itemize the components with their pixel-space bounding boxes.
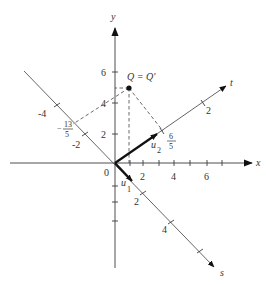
s-tick-label-4: 4: [162, 224, 167, 235]
svg-text:6: 6: [169, 132, 173, 141]
vector-u2: u 2: [115, 134, 161, 163]
s-tick-label-neg4: -4: [38, 108, 46, 119]
x-axis: 2 4 6 x: [10, 157, 261, 182]
rotated-axes-diagram: 2 4 6 x 2 4 6 y 0 2 t 6 5: [0, 0, 266, 285]
x-tick-label-4: 4: [171, 171, 176, 182]
x-tick-label-2: 2: [140, 171, 145, 182]
x-axis-label: x: [255, 157, 261, 168]
point-q: Q = Q′: [126, 71, 156, 91]
t-tick-label-2: 2: [206, 105, 211, 116]
projection-lines: [73, 88, 163, 163]
s-axis: -4 -2 2 4 s − 13 5: [24, 71, 224, 278]
u2-label-base: u: [151, 139, 156, 150]
s-projection-label: − 13 5: [57, 120, 73, 139]
x-tick-label-6: 6: [204, 171, 209, 182]
y-tick-label-4: 4: [101, 98, 106, 109]
t-projection-label: 6 5: [167, 132, 176, 151]
svg-text:13: 13: [64, 120, 72, 129]
y-axis: 2 4 6 y: [101, 11, 118, 268]
svg-text:5: 5: [169, 142, 173, 151]
y-tick-label-2: 2: [101, 129, 106, 140]
y-tick-label-6: 6: [101, 67, 106, 78]
s-axis-label: s: [220, 267, 224, 278]
u2-label-sub: 2: [157, 146, 161, 155]
origin-label: 0: [104, 167, 109, 178]
point-q-label: Q = Q′: [127, 71, 156, 82]
u1-label-sub: 1: [127, 185, 131, 194]
svg-text:5: 5: [65, 130, 69, 139]
y-axis-label: y: [110, 11, 116, 22]
s-tick-label-2: 2: [134, 196, 139, 207]
u1-label-base: u: [121, 177, 126, 188]
svg-text:−: −: [57, 124, 62, 133]
t-axis-label: t: [230, 77, 233, 88]
s-tick-label-neg2: -2: [72, 139, 80, 150]
